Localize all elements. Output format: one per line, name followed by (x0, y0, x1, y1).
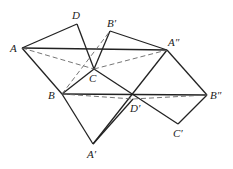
geometry-diagram: A D B′ A″ C B D′ B″ C′ A′ (0, 0, 233, 169)
label-C-prime: C′ (173, 127, 183, 139)
segment-C-C1 (94, 69, 178, 124)
label-D: D (71, 9, 80, 21)
segment-B1-A2 (110, 31, 167, 50)
label-B-prime: B′ (107, 17, 117, 29)
label-B-double-prime: B″ (210, 89, 222, 101)
segment-A-B (22, 48, 62, 94)
point-labels: A D B′ A″ C B D′ B″ C′ A′ (9, 9, 222, 160)
label-C: C (89, 72, 97, 84)
segment-D1-A1 (93, 99, 133, 144)
segment-A-A2 (22, 48, 167, 50)
segment-B-B1 (62, 31, 110, 94)
segment-C-A2 (94, 50, 167, 69)
segment-B2-C1 (178, 95, 207, 124)
label-D-prime: D′ (129, 102, 141, 114)
segment-B1-C (94, 31, 110, 69)
label-A: A (9, 42, 17, 54)
label-A-prime: A′ (86, 148, 97, 160)
label-B: B (48, 89, 55, 101)
segment-D-C (77, 24, 94, 69)
segment-A-D (22, 24, 77, 48)
segment-A2-B2 (167, 50, 207, 95)
segment-B-A1 (62, 94, 93, 144)
segment-D1-B2 (133, 95, 207, 99)
label-A-double-prime: A″ (167, 36, 180, 48)
segment-B-B2 (62, 94, 207, 95)
